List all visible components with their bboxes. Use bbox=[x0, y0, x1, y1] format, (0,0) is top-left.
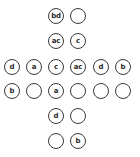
circle-r3c1: d bbox=[4, 59, 20, 75]
circle-r3c5: d bbox=[93, 59, 109, 75]
circle-r5c4 bbox=[70, 108, 86, 124]
circle-r4c3: a bbox=[48, 83, 64, 99]
circle-r1c3: bd bbox=[48, 8, 64, 24]
circle-r5c3: d bbox=[48, 108, 64, 124]
circle-r1c4 bbox=[70, 8, 86, 24]
circle-r4c1: b bbox=[4, 83, 20, 99]
circle-r4c4 bbox=[70, 83, 86, 99]
circle-r3c2: a bbox=[26, 59, 42, 75]
circle-r3c3: c bbox=[48, 59, 64, 75]
circle-r4c5 bbox=[93, 83, 109, 99]
circle-r3c6: b bbox=[115, 59, 131, 75]
circle-r6c3 bbox=[48, 133, 64, 149]
circle-r6c4: b bbox=[70, 133, 86, 149]
circle-r3c4: ac bbox=[70, 59, 86, 75]
circle-r2c3: ac bbox=[48, 33, 64, 49]
circle-r4c6 bbox=[115, 83, 131, 99]
circle-r4c2 bbox=[26, 83, 42, 99]
circle-r2c4: c bbox=[70, 33, 86, 49]
